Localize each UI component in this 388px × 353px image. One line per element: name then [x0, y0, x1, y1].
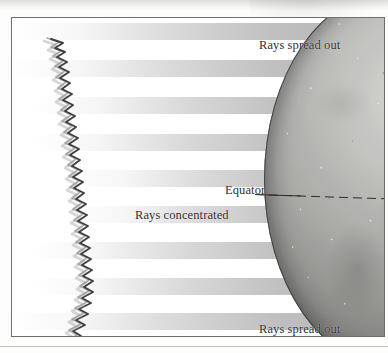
ray-band: [32, 242, 384, 259]
sunlight-earth-diagram: Rays spread out Equator Rays concentrate…: [0, 0, 388, 353]
ray-band: [32, 134, 384, 151]
ray-band: [32, 278, 384, 295]
label-rays-spread-out-bottom: Rays spread out: [259, 322, 340, 337]
globe-limb-outline: [264, 17, 385, 337]
scan-artifact-top: [0, 0, 388, 14]
ray-band: [32, 97, 384, 114]
earth-globe: [264, 17, 385, 337]
label-equator: Equator: [225, 183, 265, 198]
illustration-frame: Rays spread out Equator Rays concentrate…: [11, 17, 385, 337]
label-rays-concentrated: Rays concentrated: [135, 208, 229, 223]
label-rays-spread-out-top: Rays spread out: [259, 38, 340, 53]
equator-dashed-line: [255, 194, 385, 199]
page-bottom-rule: [0, 346, 388, 347]
sun-surface-edge-icon: [25, 36, 111, 337]
globe-surface: [264, 17, 385, 337]
ray-band: [12, 60, 384, 77]
